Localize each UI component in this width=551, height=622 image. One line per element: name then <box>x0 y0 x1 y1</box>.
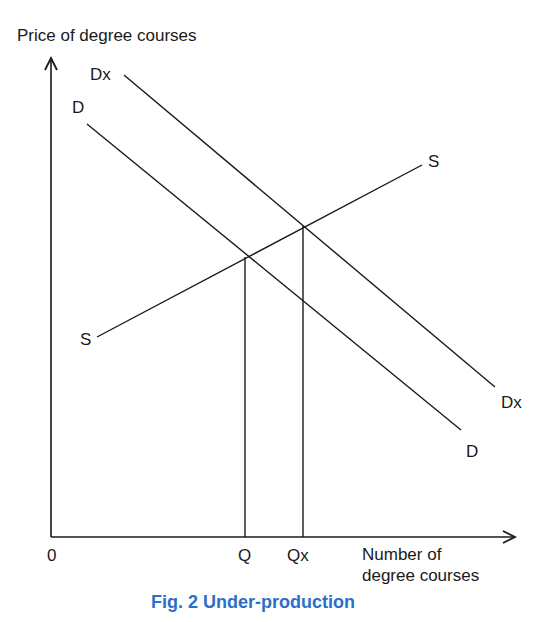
demand-curve-d <box>87 124 461 430</box>
y-axis-label: Price of degree courses <box>17 27 197 44</box>
label-dx-end: Dx <box>501 394 522 411</box>
figure-caption: Fig. 2 Under-production <box>151 592 355 613</box>
label-s-start: S <box>80 331 91 348</box>
label-dx-start: Dx <box>90 66 111 83</box>
tick-label-qx: Qx <box>287 547 309 564</box>
supply-curve-s <box>97 165 422 337</box>
demand-curve-dx <box>124 75 495 387</box>
label-d-start: D <box>72 99 84 116</box>
label-s-end: S <box>428 153 439 170</box>
origin-label: 0 <box>47 547 56 564</box>
diagram-canvas <box>0 0 551 622</box>
label-d-end: D <box>466 443 478 460</box>
x-axis-label-line2: degree courses <box>362 567 479 584</box>
tick-label-q: Q <box>238 547 251 564</box>
x-axis-label-line1: Number of <box>362 546 441 563</box>
